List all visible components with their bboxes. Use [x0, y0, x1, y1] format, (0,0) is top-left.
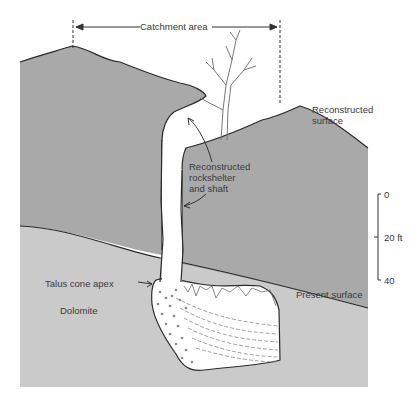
present-surface-label: Present surface	[296, 289, 363, 300]
scale-bar	[374, 194, 381, 280]
scale-tick-40: 40	[384, 275, 395, 286]
rockshelter-shaft-label: Reconstructed rockshelter and shaft	[189, 161, 250, 194]
tree-icon	[200, 30, 256, 140]
scale-tick-0: 0	[384, 189, 389, 200]
talus-cone-apex-label: Talus cone apex	[45, 278, 114, 289]
reconstructed-surface-label: Reconstructed surface	[312, 104, 373, 126]
scale-tick-20ft: 20 ft	[384, 232, 403, 243]
catchment-area-label: Catchment area	[140, 21, 208, 32]
shaft	[162, 140, 182, 282]
cross-section-diagram	[0, 0, 419, 403]
dolomite-label: Dolomite	[60, 305, 98, 316]
